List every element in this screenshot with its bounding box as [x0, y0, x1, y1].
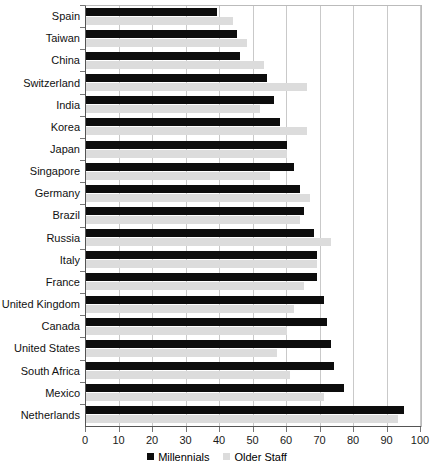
- bar-older-staff-netherlands: [86, 415, 398, 423]
- x-tick-label-10: 10: [104, 434, 134, 446]
- bar-older-staff-canada: [86, 327, 287, 335]
- legend-swatch-millennials-icon: [147, 453, 154, 460]
- bar-group-row: United States: [0, 337, 434, 359]
- bar-group-row: Italy: [0, 249, 434, 271]
- bar-group-row: South Africa: [0, 360, 434, 382]
- x-tick-label-60: 60: [271, 434, 301, 446]
- bar-older-staff-brazil: [86, 216, 300, 224]
- category-label-china: China: [0, 54, 80, 66]
- y-axis-tick: [80, 293, 85, 294]
- y-axis-tick: [80, 404, 85, 405]
- bar-group-row: China: [0, 49, 434, 71]
- y-axis-tick: [80, 5, 85, 6]
- bar-group-row: Singapore: [0, 160, 434, 182]
- legend-item-older-staff: Older Staff: [223, 450, 286, 464]
- category-label-germany: Germany: [0, 187, 80, 199]
- bar-group-row: Germany: [0, 182, 434, 204]
- bar-millennials-netherlands: [86, 406, 404, 414]
- bar-millennials-france: [86, 273, 317, 281]
- bar-millennials-switzerland: [86, 74, 267, 82]
- bar-older-staff-korea: [86, 127, 307, 135]
- y-axis-tick: [80, 249, 85, 250]
- x-tick-label-100: 100: [405, 434, 434, 446]
- y-axis-tick: [80, 94, 85, 95]
- y-axis-tick: [80, 160, 85, 161]
- bar-older-staff-singapore: [86, 172, 270, 180]
- x-tick-0: [85, 427, 86, 432]
- bar-group-row: Switzerland: [0, 71, 434, 93]
- bar-older-staff-japan: [86, 150, 287, 158]
- bar-group-row: Russia: [0, 227, 434, 249]
- x-tick-80: [353, 427, 354, 432]
- y-axis-tick: [80, 27, 85, 28]
- x-tick-40: [219, 427, 220, 432]
- x-tick-label-70: 70: [305, 434, 335, 446]
- y-axis-tick: [80, 382, 85, 383]
- bar-millennials-singapore: [86, 163, 294, 171]
- bar-group-row: France: [0, 271, 434, 293]
- bar-millennials-italy: [86, 251, 317, 259]
- bar-older-staff-italy: [86, 260, 317, 268]
- x-tick-label-30: 30: [171, 434, 201, 446]
- x-tick-label-40: 40: [204, 434, 234, 446]
- bar-rows: SpainTaiwanChinaSwitzerlandIndiaKoreaJap…: [0, 5, 434, 426]
- bar-older-staff-germany: [86, 194, 310, 202]
- bar-millennials-mexico: [86, 384, 344, 392]
- category-label-japan: Japan: [0, 143, 80, 155]
- x-tick-30: [186, 427, 187, 432]
- bar-millennials-united-states: [86, 340, 331, 348]
- bar-older-staff-taiwan: [86, 39, 247, 47]
- y-axis-tick: [80, 315, 85, 316]
- y-axis-tick: [80, 49, 85, 50]
- bar-group-row: Canada: [0, 315, 434, 337]
- bar-older-staff-mexico: [86, 393, 324, 401]
- bar-group-row: Taiwan: [0, 27, 434, 49]
- category-label-brazil: Brazil: [0, 209, 80, 221]
- category-label-united-states: United States: [0, 342, 80, 354]
- bar-older-staff-spain: [86, 17, 233, 25]
- bar-group-row: Netherlands: [0, 404, 434, 426]
- bar-group-row: Brazil: [0, 204, 434, 226]
- x-tick-label-90: 90: [372, 434, 402, 446]
- x-tick-label-50: 50: [238, 434, 268, 446]
- category-label-canada: Canada: [0, 320, 80, 332]
- bar-millennials-spain: [86, 8, 217, 16]
- bar-millennials-south-africa: [86, 362, 334, 370]
- y-axis-tick: [80, 227, 85, 228]
- bar-chart: SpainTaiwanChinaSwitzerlandIndiaKoreaJap…: [0, 0, 434, 466]
- bar-older-staff-south-africa: [86, 371, 290, 379]
- y-axis-tick: [80, 182, 85, 183]
- bar-older-staff-france: [86, 282, 304, 290]
- legend-swatch-older-staff-icon: [223, 453, 230, 460]
- bar-millennials-brazil: [86, 207, 304, 215]
- bar-millennials-taiwan: [86, 30, 237, 38]
- bar-older-staff-russia: [86, 238, 331, 246]
- category-label-russia: Russia: [0, 232, 80, 244]
- legend-label: Older Staff: [234, 451, 286, 463]
- category-label-netherlands: Netherlands: [0, 409, 80, 421]
- y-axis-tick: [80, 138, 85, 139]
- bar-group-row: Japan: [0, 138, 434, 160]
- chart-legend: MillennialsOlder Staff: [0, 450, 434, 464]
- x-tick-label-0: 0: [70, 434, 100, 446]
- x-tick-90: [387, 427, 388, 432]
- x-tick-70: [320, 427, 321, 432]
- category-label-united-kingdom: United Kingdom: [0, 298, 80, 310]
- legend-label: Millennials: [158, 451, 209, 463]
- x-tick-100: [420, 427, 421, 432]
- category-label-mexico: Mexico: [0, 387, 80, 399]
- x-tick-20: [152, 427, 153, 432]
- legend-item-millennials: Millennials: [147, 450, 209, 464]
- bar-millennials-germany: [86, 185, 300, 193]
- bar-group-row: Mexico: [0, 382, 434, 404]
- y-axis-tick: [80, 71, 85, 72]
- y-axis-tick: [80, 360, 85, 361]
- bar-group-row: United Kingdom: [0, 293, 434, 315]
- bar-millennials-korea: [86, 118, 280, 126]
- category-label-spain: Spain: [0, 10, 80, 22]
- y-axis-tick: [80, 337, 85, 338]
- bar-older-staff-united-kingdom: [86, 305, 294, 313]
- bar-millennials-united-kingdom: [86, 296, 324, 304]
- bar-millennials-canada: [86, 318, 327, 326]
- bar-group-row: Spain: [0, 5, 434, 27]
